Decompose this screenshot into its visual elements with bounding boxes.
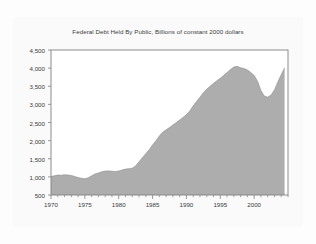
y-axis-tick-label: 4,000 [0, 65, 45, 72]
y-axis-tick-label: 500 [0, 192, 45, 199]
x-axis-tick-label: 1995 [213, 201, 227, 208]
chart-figure: Federal Debt Held By Public, Billions of… [0, 0, 316, 244]
y-axis-tick-label: 2,500 [0, 119, 45, 126]
x-axis-tick-label: 1970 [44, 201, 58, 208]
x-axis-tick-label: 2000 [247, 201, 261, 208]
y-axis-tick-label: 3,000 [0, 101, 45, 108]
y-axis-tick-label: 4,500 [0, 47, 45, 54]
x-axis-ticks [51, 195, 254, 199]
x-axis-tick-label: 1980 [112, 201, 126, 208]
x-axis-tick-label: 1985 [146, 201, 160, 208]
y-axis-tick-label: 1,500 [0, 155, 45, 162]
y-axis-tick-label: 3,500 [0, 83, 45, 90]
y-axis-tick-label: 2,000 [0, 137, 45, 144]
y-axis-tick-label: 1,000 [0, 173, 45, 180]
x-axis-tick-label: 1990 [180, 201, 194, 208]
x-axis-tick-label: 1975 [78, 201, 92, 208]
